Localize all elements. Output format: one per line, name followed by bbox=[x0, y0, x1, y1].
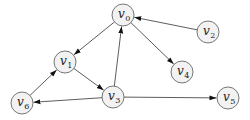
edge-v6-to-v1 bbox=[30, 70, 57, 95]
edge-v3-to-v6 bbox=[33, 98, 102, 103]
edge-v3-to-v0 bbox=[114, 26, 121, 86]
node-v4: v4 bbox=[171, 61, 193, 83]
edge-v2-to-v0 bbox=[134, 17, 197, 30]
node-v0: v0 bbox=[112, 4, 134, 26]
edge-v0-to-v1 bbox=[74, 22, 115, 55]
node-subscript: 5 bbox=[230, 97, 235, 106]
edge-v0-to-v4 bbox=[131, 23, 174, 64]
node-v5: v5 bbox=[217, 87, 239, 109]
directed-graph: v0v1v2v3v4v5v6 bbox=[0, 0, 250, 120]
edge-v3-to-v5 bbox=[124, 97, 217, 98]
node-v2: v2 bbox=[197, 21, 219, 43]
node-v6: v6 bbox=[11, 92, 33, 114]
node-v3: v3 bbox=[102, 86, 124, 108]
edge-v1-to-v3 bbox=[74, 68, 104, 90]
node-subscript: 2 bbox=[210, 31, 215, 40]
node-v1: v1 bbox=[54, 51, 76, 73]
node-subscript: 4 bbox=[184, 71, 189, 80]
node-subscript: 1 bbox=[67, 61, 72, 70]
node-subscript: 6 bbox=[24, 102, 29, 111]
node-subscript: 3 bbox=[115, 96, 120, 105]
node-subscript: 0 bbox=[125, 14, 130, 23]
